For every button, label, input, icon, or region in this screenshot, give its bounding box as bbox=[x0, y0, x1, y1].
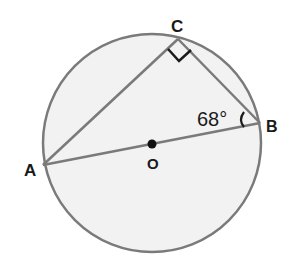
label-C: C bbox=[171, 17, 183, 36]
label-A: A bbox=[24, 161, 36, 180]
center-point-O bbox=[148, 140, 157, 149]
label-B: B bbox=[266, 118, 278, 135]
geometry-diagram: C B A O 68° bbox=[0, 0, 295, 261]
label-O: O bbox=[147, 155, 159, 172]
angle-label-B: 68° bbox=[197, 108, 227, 130]
